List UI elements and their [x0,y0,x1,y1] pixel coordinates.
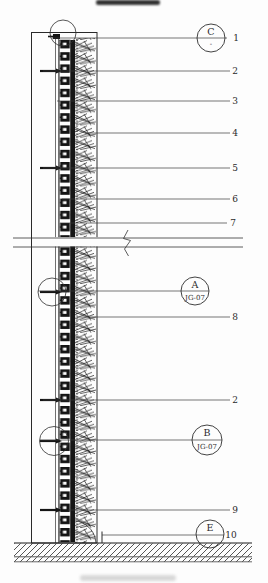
callout-label-5: 5 [232,164,238,173]
ground-hatch-upper [14,544,252,557]
callout-label-7: 7 [230,219,236,228]
callout-label-1: 1 [233,34,239,43]
callout-label-6: 6 [232,195,238,204]
bubble-b-letter: B [204,428,211,438]
break-gap-mask [33,237,239,246]
bubble-b-code: JG-07 [197,443,217,450]
ground-hatch-lower [14,557,252,561]
callout-label-8: 8 [232,313,238,322]
bubble-a-letter: A [192,280,199,290]
ref-bubble-circles [181,24,225,548]
callout-label-10: 10 [225,531,236,540]
bubble-a-code: JG-07 [185,294,205,301]
ground [14,543,252,562]
section-drawing [0,0,268,583]
bubble-e-letter: E [207,523,214,533]
callout-label-3: 3 [232,97,238,106]
callout-label-2: 2 [232,67,238,76]
callout-label-2b: 2 [232,396,238,405]
bubble-c-letter: C [207,27,214,37]
inner-frame-lines [56,36,59,543]
foliage-hatch [75,38,97,543]
cropped-caption-smudge [80,575,176,581]
bubble-c-code: - [210,41,212,48]
callout-label-9: 9 [232,506,238,515]
drawing-canvas: 1 2 3 4 5 6 7 8 2 9 10 C - A JG-07 B JG-… [0,0,268,583]
callout-label-4: 4 [232,129,238,138]
